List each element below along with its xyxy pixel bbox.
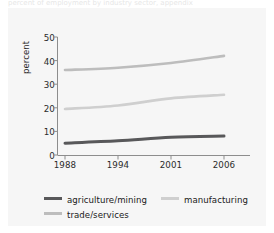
legend-swatch-manufacturing [161,197,179,200]
legend-swatch-agriculture-mining [44,197,62,200]
legend-label-trade-services: trade/services [67,210,129,220]
legend-item-trade-services[interactable]: trade/services [44,204,129,223]
y-axis-ticks [54,37,58,155]
data-series-layer [65,56,224,143]
series-line-agriculture-mining [65,136,224,143]
series-line-manufacturing [65,95,224,109]
chart-legend: agriculture/mining manufacturing trade/s… [44,188,270,218]
legend-row-2: trade/services [44,203,270,218]
x-axis-ticks [65,156,224,160]
figure-container: percent of employment by industry sector… [0,0,274,233]
legend-swatch-trade-services [44,212,62,215]
legend-row-1: agriculture/mining manufacturing [44,188,270,203]
series-line-trade-services [65,56,224,70]
